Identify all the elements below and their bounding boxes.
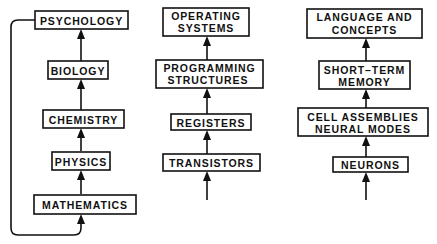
arrowhead-icon <box>203 130 211 140</box>
label-programming: PROGRAMMING <box>163 62 255 74</box>
label-chemistry: CHEMISTRY <box>49 114 119 126</box>
arrowhead-icon <box>203 36 211 46</box>
label-biology: BIOLOGY <box>51 65 106 77</box>
label-psychology: PSYCHOLOGY <box>40 15 123 27</box>
box-psychology: PSYCHOLOGY <box>35 11 128 29</box>
label-memory: MEMORY <box>338 76 390 88</box>
box-biology: BIOLOGY <box>48 61 108 79</box>
arrowhead-icon <box>77 79 85 89</box>
arrowhead-icon <box>77 29 85 39</box>
column-brain: LANGUAGE AND CONCEPTS SHORT–TERM MEMORY … <box>298 9 428 200</box>
box-neurons: NEURONS <box>333 157 408 172</box>
arrowhead-icon <box>203 88 211 98</box>
label-mathematics: MATHEMATICS <box>42 199 128 211</box>
box-chemistry: CHEMISTRY <box>43 110 124 128</box>
label-language-and: LANGUAGE AND <box>316 11 412 23</box>
arrowhead-icon <box>203 171 211 181</box>
label-registers: REGISTERS <box>177 117 246 129</box>
label-cell-assemblies: CELL ASSEMBLIES <box>307 111 419 123</box>
diagram-svg: PSYCHOLOGY BIOLOGY CHEMISTRY PHYSICS MAT… <box>0 0 437 244</box>
box-physics: PHYSICS <box>52 152 110 170</box>
label-physics: PHYSICS <box>55 156 107 168</box>
diagram-canvas: PSYCHOLOGY BIOLOGY CHEMISTRY PHYSICS MAT… <box>0 0 437 244</box>
box-transistors: TRANSISTORS <box>163 154 260 171</box>
box-registers: REGISTERS <box>171 114 251 130</box>
label-transistors: TRANSISTORS <box>169 157 254 169</box>
arrowhead-icon <box>362 172 370 182</box>
column-computers: OPERATING SYSTEMS PROGRAMMING STRUCTURES… <box>156 8 263 200</box>
arrowhead-icon <box>362 89 370 99</box>
label-structures: STRUCTURES <box>168 74 249 86</box>
box-language-and-concepts: LANGUAGE AND CONCEPTS <box>307 9 422 38</box>
arrowhead-icon <box>362 136 370 146</box>
arrowhead-icon <box>362 38 370 48</box>
label-short-term: SHORT–TERM <box>324 64 405 76</box>
box-programming-structures: PROGRAMMING STRUCTURES <box>156 60 263 88</box>
box-operating-systems: OPERATING SYSTEMS <box>163 8 249 36</box>
label-concepts: CONCEPTS <box>332 24 398 36</box>
arrowhead-icon <box>77 214 85 224</box>
arrowhead-icon <box>77 128 85 138</box>
arrowhead-icon <box>77 170 85 180</box>
label-neural-modes: NEURAL MODES <box>315 123 411 135</box>
label-systems: SYSTEMS <box>178 22 234 34</box>
box-cell-assemblies: CELL ASSEMBLIES NEURAL MODES <box>298 108 428 136</box>
box-mathematics: MATHEMATICS <box>34 195 136 214</box>
label-operating: OPERATING <box>171 10 241 22</box>
label-neurons: NEURONS <box>341 159 400 171</box>
box-short-term-memory: SHORT–TERM MEMORY <box>319 61 410 89</box>
column-sciences: PSYCHOLOGY BIOLOGY CHEMISTRY PHYSICS MAT… <box>11 11 136 235</box>
